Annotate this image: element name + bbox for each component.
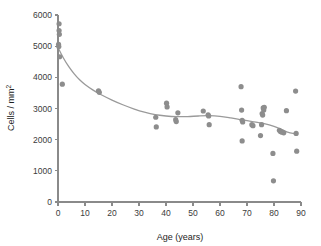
data-point [239,107,244,112]
data-point [60,82,65,87]
data-point [281,130,286,135]
data-point [164,104,169,109]
y-axis-tick-label: 2000 [33,135,52,145]
y-axis-tick-label: 3000 [33,104,52,114]
data-point [175,110,180,115]
x-axis-tick-label: 10 [80,208,90,218]
x-axis-tick-label: 80 [269,208,279,218]
data-point [154,124,159,129]
y-axis-title: Cells / mm2 [5,85,16,132]
scatter-plot: 0100020003000400050006000 01020304050607… [0,0,321,246]
data-point [206,113,211,118]
data-point [240,138,245,143]
y-axis-tick-label: 4000 [33,72,52,82]
data-point [174,119,179,124]
y-axis-tick-label: 5000 [33,41,52,51]
data-point [240,119,245,124]
data-points-group [56,21,299,183]
data-point [207,122,212,127]
y-axis-tick-label: 0 [47,197,52,207]
axes-group: 0100020003000400050006000 01020304050607… [33,10,306,218]
x-axis-title: Age (years) [157,232,204,242]
x-axis-tick-label: 0 [56,208,61,218]
data-point [258,133,263,138]
data-point [294,131,299,136]
plot-area [56,21,299,183]
data-point [201,108,206,113]
data-point [262,105,267,110]
data-point [271,178,276,183]
y-axis-ticks: 0100020003000400050006000 [33,10,58,207]
y-axis-tick-label: 1000 [33,166,52,176]
data-point [260,112,265,117]
data-point [259,122,264,127]
data-point [97,90,102,95]
data-point [56,21,61,26]
y-axis-tick-label: 6000 [33,10,52,20]
data-point [250,123,255,128]
data-point [270,151,275,156]
data-point [153,115,158,120]
x-axis-tick-label: 60 [215,208,225,218]
x-axis-ticks: 0102030405060708090 [56,202,306,218]
x-axis-tick-label: 90 [296,208,306,218]
x-axis-tick-label: 70 [242,208,252,218]
data-point [284,108,289,113]
x-axis-tick-label: 20 [107,208,117,218]
data-point [238,84,243,89]
chart-container: 0100020003000400050006000 01020304050607… [0,0,321,246]
x-axis-tick-label: 30 [134,208,144,218]
x-axis-tick-label: 40 [161,208,171,218]
data-point [294,149,299,154]
data-point [293,88,298,93]
x-axis-tick-label: 50 [188,208,198,218]
